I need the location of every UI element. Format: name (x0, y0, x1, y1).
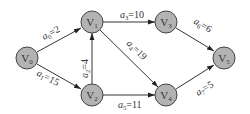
graph-canvas: a0=2 a1=15 a2=4 a3=10 a4=19 a5=11 a6=6 a… (0, 0, 250, 114)
node-v5: V5 (213, 47, 235, 69)
edge-label-a3: a3=10 (120, 9, 144, 21)
node-v4: V4 (155, 84, 177, 106)
node-v0: V0 (16, 47, 38, 69)
edge-a4 (100, 30, 158, 87)
node-v3: V3 (155, 11, 177, 33)
edge-label-a2: a2=4 (79, 59, 91, 78)
node-v1: V1 (81, 11, 103, 33)
node-v2: V2 (81, 84, 103, 106)
edge-label-a4: a4=19 (124, 38, 150, 63)
edge-label-a5: a5=11 (118, 99, 142, 111)
edge-label-a6: a6=6 (191, 15, 213, 35)
edge-label-a7: a7=5 (193, 79, 215, 99)
edge-label-a1: a1=15 (35, 67, 62, 89)
edge-labels: a0=2 a1=15 a2=4 a3=10 a4=19 a5=11 a6=6 a… (35, 9, 216, 111)
edges (37, 22, 214, 95)
